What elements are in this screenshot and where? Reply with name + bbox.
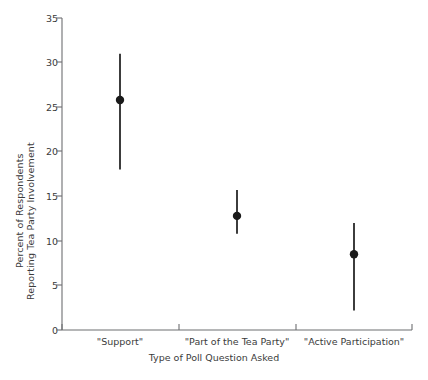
chart-figure: Percent of Respondents Reporting Tea Par… <box>0 0 428 380</box>
x-tick-label-active-participation: "Active Participation" <box>304 336 404 347</box>
data-point-part-of-the-tea-party <box>233 190 241 234</box>
data-point-active-participation <box>350 223 358 310</box>
x-axis-ticks <box>62 324 412 330</box>
x-tick-label-support: "Support" <box>97 336 143 347</box>
x-tick-label-part-of-the-tea-party: "Part of the Tea Party" <box>185 336 290 347</box>
y-axis-ticks <box>56 18 62 330</box>
marker-support <box>116 96 124 104</box>
x-axis-title: Type of Poll Question Asked <box>0 352 428 363</box>
data-point-support <box>116 54 124 170</box>
marker-part-of-the-tea-party <box>233 212 241 220</box>
marker-active-participation <box>350 250 358 258</box>
plot-area <box>0 0 428 380</box>
